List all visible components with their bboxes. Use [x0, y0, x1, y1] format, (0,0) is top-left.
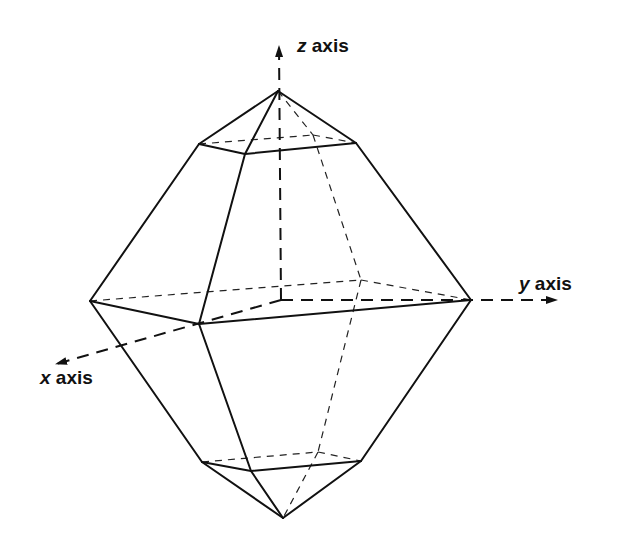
hidden-edge-mid-back-right [361, 280, 471, 300]
hidden-edge-lower-left-back [202, 452, 318, 462]
x-axis-label: x axis [39, 367, 93, 388]
edge-apex-upper-front [245, 91, 278, 154]
edge-upper-front-mid-front [199, 154, 245, 324]
edge-equator-front [90, 300, 471, 324]
hidden-edge-mid-back-lower-back [318, 280, 361, 452]
hidden-edge-lower-back-right [318, 452, 361, 461]
hidden-edge-lower-back-apex [283, 452, 318, 518]
hidden-edge-apex-upper-back [278, 91, 313, 135]
z-axis-label: z axis [296, 35, 349, 56]
hidden-edge-upper-left-back [199, 135, 313, 144]
edge-upper-front-ring [199, 143, 356, 154]
edge-mid-front-lower-front [199, 324, 251, 471]
edge-lower-front-apex [251, 471, 283, 518]
edge-upper-left-mid-left [90, 144, 199, 301]
crystal-diagram: z axis y axis x axis [0, 0, 619, 546]
edge-mid-right-lower-right [361, 300, 471, 461]
hidden-edge-mid-left-back [90, 280, 361, 301]
edge-upper-right-mid-right [356, 143, 471, 300]
y-axis-label: y axis [518, 273, 572, 294]
z-axis-line [279, 46, 281, 300]
x-axis-line [56, 300, 281, 364]
hidden-edge-upper-back-mid-back [313, 135, 361, 280]
edge-mid-left-lower-left [90, 301, 202, 462]
edge-lower-right-apex [283, 461, 361, 518]
axes [56, 46, 557, 364]
edge-apex-upper-left [199, 91, 278, 144]
edge-lower-front-ring [202, 461, 361, 471]
